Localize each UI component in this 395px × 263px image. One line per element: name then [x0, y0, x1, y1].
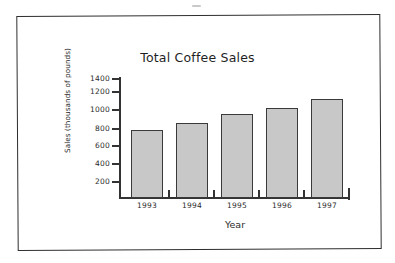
y-axis-tick-label: 200 [80, 177, 110, 186]
y-axis-tick [112, 181, 119, 183]
x-axis-tick-label: 1995 [217, 201, 257, 210]
bar-1997[interactable] [311, 99, 343, 198]
x-axis-tick [258, 190, 260, 198]
x-axis-tick-label: 1997 [307, 201, 347, 210]
y-axis-tick-label: 600 [80, 141, 110, 150]
y-axis-tick [112, 163, 119, 165]
x-axis-tick [303, 190, 305, 198]
x-axis-tick [168, 190, 170, 198]
y-axis-tick [112, 78, 119, 80]
y-axis-tick-label: 400 [80, 159, 110, 168]
x-axis-tick-label: 1994 [172, 201, 212, 210]
bar-1994[interactable] [176, 123, 208, 198]
x-axis-tick-label: 1993 [127, 201, 167, 210]
y-axis-tick-label: 1400 [80, 74, 110, 83]
x-axis-tick-label: 1996 [262, 201, 302, 210]
y-axis-tick [112, 128, 119, 130]
bar-1996[interactable] [266, 108, 298, 198]
x-axis-title: Year [120, 219, 350, 230]
y-axis-tick [112, 91, 119, 93]
y-axis-tick-label: 800 [80, 124, 110, 133]
chart-page: Total Coffee Sales Sales (thousands of p… [0, 0, 395, 263]
bar-chart: Total Coffee Sales Sales (thousands of p… [0, 0, 395, 263]
y-axis-tick [112, 109, 119, 111]
y-axis-tick-label: 1000 [80, 105, 110, 114]
bar-1993[interactable] [131, 130, 163, 198]
x-axis-end-tick [348, 188, 350, 200]
bar-1995[interactable] [221, 114, 253, 198]
x-axis-tick [213, 190, 215, 198]
chart-title: Total Coffee Sales [0, 50, 395, 65]
y-axis-line [119, 77, 121, 199]
y-axis-tick [112, 145, 119, 147]
y-axis-tick-label: 1200 [80, 87, 110, 96]
y-axis-title: Sales (thousands of pounds) [63, 31, 72, 171]
